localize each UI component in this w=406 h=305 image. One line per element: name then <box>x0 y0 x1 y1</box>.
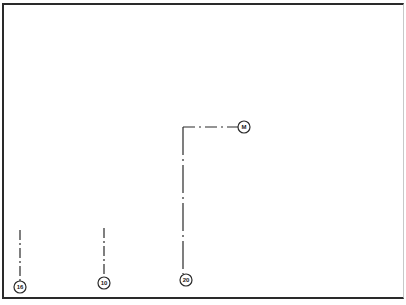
callout-20: 20 <box>180 274 192 286</box>
callout-10: 10 <box>98 277 110 289</box>
callout-label-20: 20 <box>183 277 190 283</box>
diagram-canvas: 16 10 20 M <box>0 0 406 305</box>
callout-label-10: 10 <box>101 280 108 286</box>
callout-16: 16 <box>14 281 26 293</box>
callout-m: M <box>238 121 250 133</box>
callout-label-m: M <box>242 124 247 130</box>
callout-label-16: 16 <box>17 284 24 290</box>
